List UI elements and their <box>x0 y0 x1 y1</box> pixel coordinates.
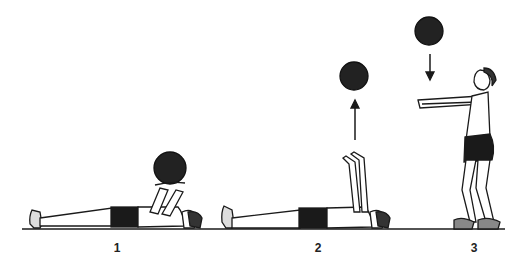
medicine-ball-2 <box>340 62 368 90</box>
medicine-ball-1 <box>154 152 186 184</box>
medicine-ball-3 <box>415 17 443 45</box>
exercise-illustration <box>0 0 532 269</box>
step-label-2: 2 <box>315 241 322 255</box>
step-label-3: 3 <box>471 241 478 255</box>
figure-2 <box>222 62 390 228</box>
step-label-1: 1 <box>114 241 121 255</box>
figure-1 <box>30 152 202 228</box>
figure-3 <box>415 17 500 229</box>
